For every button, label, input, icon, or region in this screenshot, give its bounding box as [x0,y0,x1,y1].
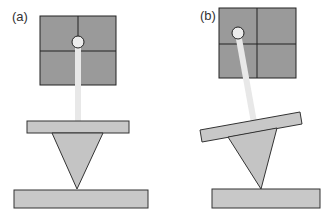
laser-beam-a [75,42,81,122]
probe-tip-b [228,128,277,189]
panel-a-label: (a) [12,9,28,24]
panel-a: (a) [12,9,148,208]
sample-surface-b [212,189,320,208]
laser-spot-b [232,27,244,39]
afm-deflection-diagram: (a) (b) [0,0,335,215]
panel-b: (b) [200,8,320,208]
photodetector-b [219,8,296,78]
probe-tip-a [52,133,103,189]
panel-b-label: (b) [200,8,216,23]
laser-spot-a [72,36,84,48]
cantilever-a [27,121,129,133]
sample-surface-a [14,190,148,208]
